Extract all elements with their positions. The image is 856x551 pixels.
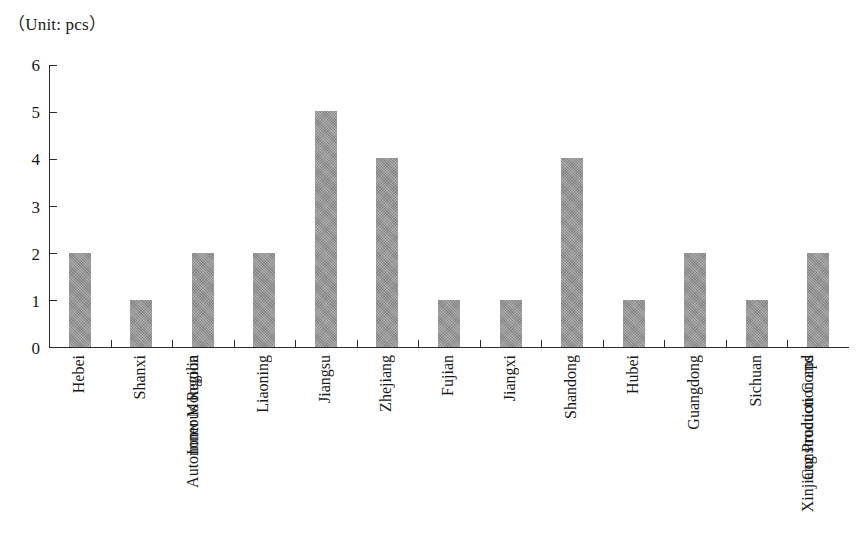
bar bbox=[376, 158, 398, 347]
y-axis-tick bbox=[50, 159, 57, 160]
x-axis-tick bbox=[234, 340, 235, 348]
bar bbox=[623, 300, 645, 347]
y-axis-tick bbox=[50, 253, 57, 254]
bar bbox=[130, 300, 152, 347]
bar bbox=[561, 158, 583, 347]
y-axis-tick bbox=[50, 300, 57, 301]
x-axis-tick bbox=[726, 340, 727, 348]
y-axis-tick-label: 2 bbox=[32, 245, 41, 262]
bar bbox=[746, 300, 768, 347]
x-axis-tick bbox=[295, 340, 296, 348]
bar bbox=[253, 253, 275, 347]
x-axis-label: Hebei bbox=[71, 355, 89, 393]
x-axis-label: Jiangxi bbox=[502, 355, 520, 401]
y-axis-tick bbox=[50, 112, 57, 113]
x-axis-label: Liaoning bbox=[255, 355, 273, 413]
bar bbox=[500, 300, 522, 347]
y-axis-tick bbox=[50, 206, 57, 207]
unit-title: （Unit: pcs） bbox=[8, 10, 106, 35]
y-axis-tick bbox=[50, 65, 57, 66]
x-axis-label: Autonomous Region bbox=[185, 355, 203, 488]
x-axis-label: Construction Corps bbox=[800, 355, 818, 480]
x-axis-tick bbox=[603, 340, 604, 348]
bar bbox=[684, 253, 706, 347]
x-axis-tick bbox=[480, 340, 481, 348]
y-axis-tick-label: 4 bbox=[32, 151, 41, 168]
x-axis-label: Fujian bbox=[440, 355, 458, 396]
x-axis-tick bbox=[787, 340, 788, 348]
y-axis-tick-label: 1 bbox=[32, 292, 41, 309]
x-axis-label: Shandong bbox=[563, 355, 581, 419]
y-axis-tick-label: 6 bbox=[32, 57, 41, 74]
x-axis-label: Shanxi bbox=[132, 355, 150, 399]
bar bbox=[807, 253, 829, 347]
x-axis-tick bbox=[357, 340, 358, 348]
x-axis-line bbox=[49, 347, 849, 348]
x-axis-label: Sichuan bbox=[748, 355, 766, 407]
x-axis-label: Jiangsu bbox=[317, 355, 335, 403]
y-axis-tick-label: 5 bbox=[32, 104, 41, 121]
x-axis-tick bbox=[541, 340, 542, 348]
y-axis-tick-label: 3 bbox=[32, 198, 41, 215]
bar bbox=[315, 111, 337, 347]
bar-chart-plot-area: 0123456 HebeiShanxiInner MongoliaAutonom… bbox=[49, 65, 849, 348]
bar bbox=[192, 253, 214, 347]
x-axis-tick bbox=[172, 340, 173, 348]
x-axis-label: Zhejiang bbox=[378, 355, 396, 412]
bar bbox=[69, 253, 91, 347]
x-axis-label: Hubei bbox=[625, 355, 643, 394]
bar bbox=[438, 300, 460, 347]
x-axis-label: Guangdong bbox=[686, 355, 704, 430]
x-axis-tick bbox=[111, 340, 112, 348]
x-axis-tick bbox=[664, 340, 665, 348]
y-axis-tick-label: 0 bbox=[32, 340, 41, 357]
x-axis-tick bbox=[418, 340, 419, 348]
